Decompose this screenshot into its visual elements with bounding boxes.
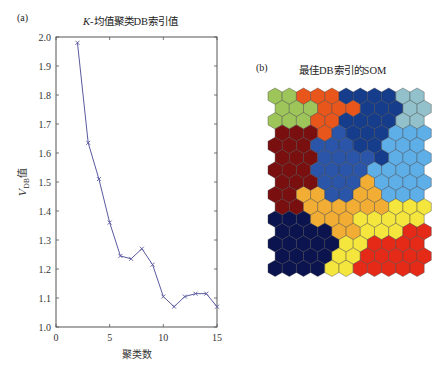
data-point-marker: [140, 247, 144, 251]
y-tick-label: 1.0: [39, 322, 52, 333]
y-tick-label: 1.2: [39, 264, 52, 275]
y-axis-label: VDB值: [16, 168, 31, 196]
y-tick-label: 1.4: [39, 206, 52, 217]
y-tick-label: 1.8: [39, 90, 52, 101]
x-tick-label: 10: [158, 332, 168, 343]
y-tick-label: 1.6: [39, 148, 52, 159]
series-group: [75, 41, 219, 309]
x-tick-label: 15: [212, 332, 222, 343]
plot-frame: [56, 37, 217, 327]
y-tick-label: 1.9: [39, 61, 52, 72]
x-tick-label: 0: [54, 332, 59, 343]
x-axis-label: 聚类数: [122, 348, 152, 360]
chart-area: 1.01.11.21.31.41.51.61.71.81.92.0051015聚…: [0, 0, 445, 375]
y-tick-label: 1.5: [39, 177, 52, 188]
som-grid: [268, 88, 431, 277]
y-tick-label: 1.3: [39, 235, 52, 246]
y-tick-label: 2.0: [39, 32, 52, 43]
x-tick-label: 5: [107, 332, 112, 343]
data-point-marker: [172, 305, 176, 309]
series-line: [77, 43, 217, 307]
axes: 1.01.11.21.31.41.51.61.71.81.92.0051015聚…: [16, 32, 222, 361]
y-tick-label: 1.7: [39, 119, 52, 130]
y-tick-label: 1.1: [39, 293, 52, 304]
